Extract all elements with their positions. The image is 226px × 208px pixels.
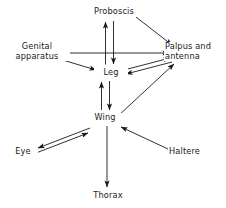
node-wing: Wing [88,113,122,123]
node-thorax: Thorax [86,191,130,201]
node-palpus-and-antenna: Palpus and antenna [164,42,226,61]
edge-wing-to-eye [38,128,90,148]
node-eye: Eye [8,147,38,157]
node-haltere: Haltere [168,147,214,157]
edge-layer [0,0,226,208]
transformation-diagram: Proboscis Genital apparatus Palpus and a… [0,0,226,208]
node-genital-apparatus: Genital apparatus [4,42,70,61]
edge-eye-to-wing [36,133,88,153]
node-leg: Leg [94,68,128,78]
node-proboscis: Proboscis [0,7,226,17]
edge-haltere-to-wing [121,127,168,149]
